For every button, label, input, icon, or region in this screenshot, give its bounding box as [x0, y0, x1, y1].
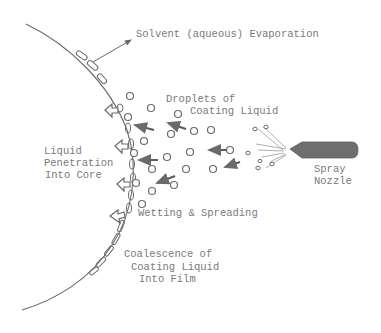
droplet-icon — [171, 182, 178, 189]
coalescence-label-line1: Coalescence of — [124, 248, 212, 260]
wetting-label: Wetting & Spreading — [138, 207, 258, 219]
droplet-icon — [164, 154, 171, 161]
hollow-arrow-left-icon — [117, 178, 130, 191]
evaporation-arrow — [93, 40, 131, 62]
droplet-icon — [191, 128, 198, 135]
droplet-icon — [148, 105, 155, 112]
droplet-icon — [127, 93, 134, 100]
coalescence-label-line3: Into Film — [139, 273, 196, 285]
droplet-icon — [187, 149, 194, 156]
droplet-icon — [168, 131, 175, 138]
droplets-label-line2: Coating Liquid — [190, 105, 278, 117]
droplet-icon — [208, 127, 215, 134]
droplet-icon — [183, 166, 190, 173]
spray-fan — [246, 125, 286, 170]
nozzle-label-line2: Nozzle — [314, 175, 352, 187]
droplet-icon — [210, 166, 217, 173]
droplet-icon — [149, 166, 156, 173]
hollow-arrow-left-icon — [110, 210, 125, 223]
droplet-icon — [125, 114, 132, 121]
droplets-label-line1: Droplets of — [166, 93, 235, 105]
spray-coating-diagram: Solvent (aqueous) Evaporation Droplets o… — [0, 0, 381, 333]
droplet-icon — [133, 180, 140, 187]
droplet-icon — [149, 188, 156, 195]
droplet-icon — [227, 147, 234, 154]
penetration-label-line3: Into Core — [45, 169, 102, 181]
nozzle-label-line1: Spray — [314, 163, 346, 175]
small-droplet-icon — [253, 127, 257, 131]
small-droplet-icon — [256, 166, 260, 170]
small-droplet-icon — [270, 162, 274, 166]
small-droplet-icon — [264, 125, 268, 129]
evaporation-label: Solvent (aqueous) Evaporation — [136, 28, 319, 40]
droplet-icon — [175, 111, 182, 118]
coalescence-label-line2: Coating Liquid — [131, 261, 219, 273]
droplet-icon — [131, 150, 138, 157]
film-segments-upper — [75, 50, 107, 85]
droplet-icon — [141, 138, 148, 145]
penetration-label-line2: Penetration — [44, 157, 113, 169]
small-droplet-icon — [258, 159, 262, 162]
spray-nozzle-icon — [290, 142, 358, 158]
hollow-arrow-left-icon — [115, 140, 128, 153]
penetration-label-line1: Liquid — [44, 145, 82, 157]
small-droplet-icon — [246, 151, 250, 155]
